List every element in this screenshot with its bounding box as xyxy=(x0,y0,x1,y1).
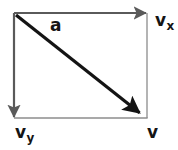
label-vx-base: v xyxy=(155,10,166,30)
label-vy: vy xyxy=(15,124,34,144)
label-vy-subscript: y xyxy=(27,131,35,145)
vector-decomposition-diagram: a vx vy v xyxy=(0,0,178,150)
resultant-vector-arrow xyxy=(16,15,140,113)
label-vy-base: v xyxy=(15,122,26,142)
label-v: v xyxy=(147,124,159,144)
label-vx: vx xyxy=(155,12,174,32)
label-vx-subscript: x xyxy=(167,19,175,33)
label-v-base: v xyxy=(147,122,158,142)
label-a: a xyxy=(50,17,62,37)
label-a-base: a xyxy=(50,15,61,35)
